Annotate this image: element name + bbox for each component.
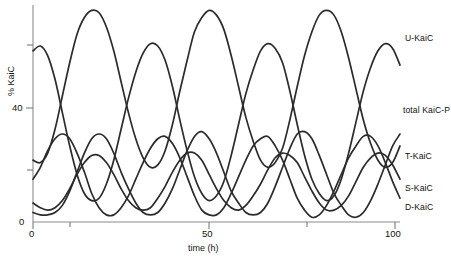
x-tick-50: 50 — [202, 228, 213, 239]
legend-label-d-kaic: D-KaiC — [405, 202, 433, 212]
x-tick-100: 100 — [385, 228, 401, 239]
y-tick-0: 0 — [19, 216, 24, 227]
plot-canvas — [0, 0, 451, 258]
y-tick-40: 40 — [12, 102, 23, 113]
x-axis-label: time (h) — [188, 243, 219, 253]
chart-figure: % KaiC time (h) 0 40 0 50 100 U-KaiC tot… — [0, 0, 451, 258]
x-tick-0: 0 — [29, 228, 34, 239]
curve-d-kaic — [33, 131, 400, 217]
legend-label-u-kaic: U-KaiC — [405, 33, 433, 43]
legend-label-total-kaic-p: total KaiC-P — [403, 105, 450, 115]
curve-u-kaic — [33, 43, 400, 201]
legend-label-t-kaic: T-KaiC — [405, 151, 432, 161]
legend-label-s-kaic: S-KaiC — [405, 183, 433, 193]
y-axis-label: % KaiC — [6, 66, 16, 96]
data-curves — [33, 10, 400, 217]
